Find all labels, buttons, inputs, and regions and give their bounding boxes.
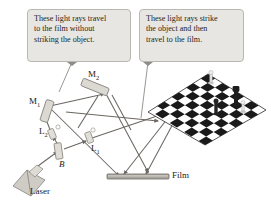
callout-right-line-1: These light rays strike [146, 14, 238, 24]
callout-left: These light rays travel to the film with… [27, 9, 131, 62]
label-film: Film [172, 171, 189, 180]
callout-left-line-1: These light rays travel [34, 14, 125, 24]
callout-left-line-2: to the film without [34, 24, 125, 34]
label-lens-2: L2 [39, 127, 48, 138]
figure-canvas: These light rays travel to the film with… [0, 0, 271, 202]
callout-right-line-3: travel to the film. [146, 35, 238, 45]
callout-left-line-3: striking the object. [34, 35, 125, 45]
label-mirror-1: M1 [29, 97, 40, 108]
label-lens-1: L1 [91, 144, 100, 155]
label-beam-splitter: B [59, 160, 65, 169]
label-laser: Laser [30, 187, 50, 196]
callout-right: These light rays strike the object and t… [139, 9, 244, 62]
callout-right-line-2: the object and then [146, 24, 238, 34]
label-mirror-2: M2 [88, 70, 99, 81]
